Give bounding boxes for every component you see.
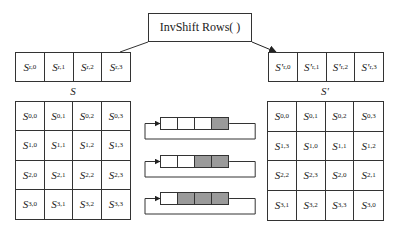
cell-subscript: 0,3 <box>367 112 376 120</box>
inv-shift-rows-title-box: InvShift Rows( ) <box>148 13 252 42</box>
output-row-cell: S'r,3 <box>355 53 383 81</box>
cell-subscript: r,0 <box>283 63 290 71</box>
output-row-cell: S'r,2 <box>327 53 356 81</box>
cell-subscript: r,3 <box>369 63 376 71</box>
input-row-cell: Sr,0 <box>16 53 45 81</box>
cell-subscript: 0,2 <box>338 112 347 120</box>
input-connector-line <box>120 42 148 52</box>
shift-register-diagram <box>160 155 229 168</box>
cell-subscript: 3,3 <box>114 200 123 208</box>
matrix-cell: S1,0 <box>16 131 45 160</box>
cell-subscript: 0,1 <box>57 112 66 120</box>
cell-subscript: 2,1 <box>57 171 66 179</box>
shifted-byte-cell <box>212 156 228 167</box>
cell-subscript: 0,0 <box>280 112 289 120</box>
shifted-byte-cell <box>212 118 228 129</box>
matrix-cell: S2,3 <box>297 161 326 191</box>
output-arrow <box>252 42 276 52</box>
shift-register-diagram <box>160 192 229 205</box>
cell-subscript: 3,2 <box>309 201 318 209</box>
matrix-cell: S3,2 <box>297 191 326 221</box>
matrix-cell: S1,0 <box>297 132 326 162</box>
right-matrix-label: S' <box>315 85 335 97</box>
matrix-cell: S2,0 <box>326 161 355 191</box>
matrix-cell: S0,1 <box>45 102 74 131</box>
cell-subscript: 1,3 <box>280 142 289 150</box>
matrix-cell: S2,0 <box>16 161 45 190</box>
byte-cell <box>178 118 195 129</box>
cell-subscript: r,3 <box>115 63 122 71</box>
shifted-byte-cell <box>195 193 212 204</box>
matrix-cell: S3,2 <box>73 190 102 219</box>
matrix-cell: S1,3 <box>102 131 131 160</box>
matrix-cell: S3,3 <box>326 191 355 221</box>
cell-symbol: S' <box>362 61 370 73</box>
cell-subscript: 1,1 <box>57 141 66 149</box>
title-text: InvShift Rows( ) <box>160 20 241 35</box>
cell-subscript: 2,0 <box>28 171 37 179</box>
byte-cell <box>161 156 178 167</box>
matrix-cell: S1,1 <box>45 131 74 160</box>
cell-subscript: 3,2 <box>85 200 94 208</box>
matrix-cell: S2,2 <box>268 161 297 191</box>
left-matrix-label: S <box>63 85 83 97</box>
matrix-cell: S1,3 <box>268 132 297 162</box>
state-matrix-s-prime: S0,0S0,1S0,2S0,3S1,3S1,0S1,1S1,2S2,2S2,3… <box>267 101 384 221</box>
cell-subscript: 1,3 <box>114 141 123 149</box>
matrix-cell: S0,1 <box>297 102 326 132</box>
cell-subscript: 3,0 <box>367 201 376 209</box>
shifted-byte-cell <box>195 156 212 167</box>
shifted-byte-cell <box>212 193 228 204</box>
matrix-cell: S3,3 <box>102 190 131 219</box>
cell-subscript: 2,2 <box>280 171 289 179</box>
matrix-cell: S0,3 <box>354 102 383 132</box>
cell-subscript: 0,3 <box>114 112 123 120</box>
input-row-cell: Sr,1 <box>45 53 74 81</box>
cell-subscript: 2,1 <box>367 171 376 179</box>
cell-subscript: 3,1 <box>280 201 289 209</box>
cell-symbol: S' <box>304 61 312 73</box>
matrix-cell: S0,2 <box>73 102 102 131</box>
cell-subscript: 2,3 <box>114 171 123 179</box>
matrix-cell: S2,1 <box>45 161 74 190</box>
matrix-cell: S0,2 <box>326 102 355 132</box>
input-row-state: Sr,0Sr,1Sr,2Sr,3 <box>15 52 131 82</box>
matrix-cell: S2,3 <box>102 161 131 190</box>
cell-subscript: r,2 <box>86 63 93 71</box>
byte-cell <box>178 156 195 167</box>
output-row-state: S'r,0S'r,1S'r,2S'r,3 <box>268 52 384 82</box>
input-row-cell: Sr,3 <box>102 53 130 81</box>
cell-subscript: 3,1 <box>57 200 66 208</box>
matrix-cell: S2,2 <box>73 161 102 190</box>
matrix-cell: S3,1 <box>45 190 74 219</box>
matrix-cell: S1,2 <box>73 131 102 160</box>
matrix-cell: S1,2 <box>354 132 383 162</box>
cell-subscript: 1,0 <box>28 141 37 149</box>
cell-subscript: 0,2 <box>85 112 94 120</box>
cell-subscript: 2,0 <box>338 171 347 179</box>
input-row-cell: Sr,2 <box>74 53 103 81</box>
matrix-cell: S2,1 <box>354 161 383 191</box>
cell-subscript: 1,0 <box>309 142 318 150</box>
byte-cell <box>195 118 212 129</box>
matrix-cell: S3,1 <box>268 191 297 221</box>
matrix-cell: S0,3 <box>102 102 131 131</box>
cell-subscript: r,0 <box>29 63 36 71</box>
cell-subscript: r,1 <box>312 63 319 71</box>
byte-cell <box>161 118 178 129</box>
cell-subscript: 3,0 <box>28 200 37 208</box>
output-row-cell: S'r,0 <box>269 53 298 81</box>
cell-subscript: r,1 <box>58 63 65 71</box>
byte-cell <box>161 193 178 204</box>
matrix-cell: S0,0 <box>16 102 45 131</box>
output-row-cell: S'r,1 <box>298 53 327 81</box>
cell-subscript: 2,2 <box>85 171 94 179</box>
state-matrix-s: S0,0S0,1S0,2S0,3S1,0S1,1S1,2S1,3S2,0S2,1… <box>15 101 131 220</box>
shift-register-diagram <box>160 117 229 130</box>
cell-subscript: 0,0 <box>28 112 37 120</box>
cell-subscript: 2,3 <box>309 171 318 179</box>
shifted-byte-cell <box>178 193 195 204</box>
cell-subscript: 1,2 <box>85 141 94 149</box>
cell-subscript: 1,2 <box>367 142 376 150</box>
matrix-cell: S1,1 <box>326 132 355 162</box>
